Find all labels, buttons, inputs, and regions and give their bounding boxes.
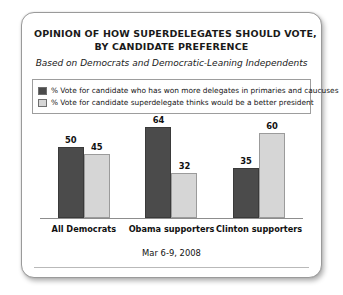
bar-value: 64 (153, 116, 165, 125)
bar-obama-dark: 64 (145, 114, 171, 218)
chart-plot-area: 50 45 64 32 35 (32, 114, 311, 219)
chart-bar-groups: 50 45 64 32 35 (40, 114, 303, 218)
chart-baseline-axis (40, 218, 303, 219)
chart-card: OPINION OF HOW SUPERDELEGATES SHOULD VOT… (21, 12, 322, 278)
chart-legend: % Vote for candidate who has won more de… (32, 79, 311, 114)
chart-subtitle: Based on Democrats and Democratic-Leanin… (34, 56, 309, 70)
bar-all-democrats-light: 45 (84, 114, 110, 218)
bar-all-democrats-dark: 50 (58, 114, 84, 218)
bar-rect-light (259, 133, 285, 218)
bar-value: 45 (91, 143, 103, 152)
bar-clinton-light: 60 (259, 114, 285, 218)
bar-group-obama-supporters: 64 32 (131, 114, 213, 218)
chart-category-labels: All Democrats Obama supporters Clinton s… (40, 219, 303, 234)
legend-label-delegates: % Vote for candidate who has won more de… (51, 85, 339, 96)
chart-footer-date: Mar 6-9, 2008 (22, 248, 321, 258)
legend-swatch-better-president (38, 99, 47, 107)
bar-rect-light (171, 173, 197, 218)
legend-label-better-president: % Vote for candidate superdelegate think… (51, 97, 314, 108)
bar-value: 35 (240, 157, 252, 166)
bar-clinton-dark: 35 (233, 114, 259, 218)
legend-item-better-president: % Vote for candidate superdelegate think… (38, 97, 305, 108)
bar-value: 32 (179, 162, 191, 171)
legend-swatch-delegates (38, 87, 47, 95)
bar-group-clinton-supporters: 35 60 (218, 114, 300, 218)
bar-rect-light (84, 154, 110, 218)
category-label-obama-supporters: Obama supporters (128, 224, 215, 234)
bar-rect-dark (58, 147, 84, 218)
chart-title-line-2: BY CANDIDATE PREFERENCE (34, 40, 309, 53)
chart-title-block: OPINION OF HOW SUPERDELEGATES SHOULD VOT… (22, 13, 321, 70)
category-label-clinton-supporters: Clinton supporters (216, 224, 303, 234)
legend-item-delegates: % Vote for candidate who has won more de… (38, 85, 305, 96)
chart-footer-divider (34, 267, 309, 268)
bar-rect-dark (233, 168, 259, 218)
bar-obama-light: 32 (171, 114, 197, 218)
bar-value: 50 (65, 136, 77, 145)
bar-rect-dark (145, 127, 171, 218)
bar-value: 60 (266, 122, 278, 131)
bar-group-all-democrats: 50 45 (43, 114, 125, 218)
category-label-all-democrats: All Democrats (40, 224, 127, 234)
chart-title-line-1: OPINION OF HOW SUPERDELEGATES SHOULD VOT… (34, 27, 309, 40)
